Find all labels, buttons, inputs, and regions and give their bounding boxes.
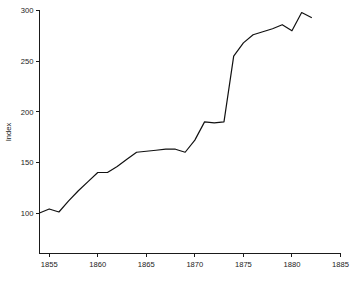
y-tick-label-100: 100 (21, 209, 34, 218)
y-tick-label-250: 250 (21, 57, 34, 66)
y-tick-label-200: 200 (21, 108, 34, 117)
series-index-line (40, 13, 312, 213)
data-series-line (40, 13, 312, 213)
x-tick-label-1860: 1860 (89, 260, 106, 269)
y-tick-label-300: 300 (21, 6, 34, 15)
y-axis-title: Index (4, 123, 13, 142)
y-axis-title-text: Index (4, 123, 13, 142)
chart-axes (40, 11, 341, 254)
chart-container: 100150200250300 185518601865187018751880… (0, 0, 358, 287)
x-axis-tick-labels: 1855186018651870187518801885 (41, 260, 349, 269)
x-tick-label-1855: 1855 (41, 260, 58, 269)
x-tick-label-1870: 1870 (186, 260, 203, 269)
y-tick-label-150: 150 (21, 158, 34, 167)
axis-spines (40, 11, 341, 254)
x-tick-label-1875: 1875 (235, 260, 252, 269)
x-tick-label-1880: 1880 (283, 260, 300, 269)
x-tick-label-1865: 1865 (138, 260, 155, 269)
line-chart-plot: 100150200250300 185518601865187018751880… (0, 0, 358, 287)
y-axis-tick-labels: 100150200250300 (21, 6, 34, 218)
axis-tick-marks (36, 11, 341, 258)
x-tick-label-1885: 1885 (332, 260, 349, 269)
